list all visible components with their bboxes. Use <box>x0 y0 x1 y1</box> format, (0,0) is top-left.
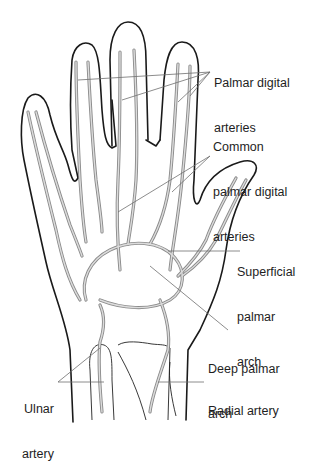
label-line: Radial artery <box>208 404 279 419</box>
label-line: palmar <box>237 310 295 325</box>
label-ulnar-artery: Ulnar artery <box>22 372 54 465</box>
label-line: Common <box>213 140 287 155</box>
label-line: palmar digital <box>213 185 287 200</box>
label-line: Palmar digital <box>214 76 290 91</box>
label-radial-artery: Radial artery <box>208 374 279 434</box>
label-line: Ulnar <box>22 402 54 417</box>
label-line: artery <box>22 447 54 462</box>
label-line: Superficial <box>237 265 295 280</box>
